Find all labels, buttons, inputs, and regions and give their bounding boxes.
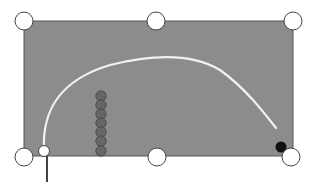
editor-canvas[interactable] — [0, 0, 312, 189]
handle-bottom-right[interactable] — [282, 148, 300, 166]
handle-top-left[interactable] — [15, 12, 33, 30]
handle-top-middle[interactable] — [147, 12, 165, 30]
handle-bottom-left[interactable] — [15, 148, 33, 166]
curve-start-point[interactable] — [39, 146, 50, 157]
dot — [96, 146, 106, 156]
dot — [96, 136, 106, 146]
selection-box[interactable] — [24, 21, 293, 156]
handle-bottom-middle[interactable] — [148, 148, 166, 166]
handle-top-right[interactable] — [284, 12, 302, 30]
